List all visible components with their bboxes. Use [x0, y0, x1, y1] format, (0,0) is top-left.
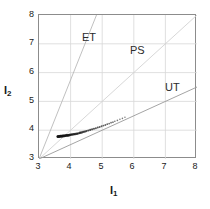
- x-tick-label: 7: [157, 162, 171, 171]
- x-tick-label: 5: [94, 162, 108, 171]
- plot-area: ET PS UT: [38, 14, 196, 158]
- region-label-ps: PS: [130, 44, 145, 56]
- x-axis-title-sub: 1: [113, 189, 117, 198]
- chart-figure: I2 I1 8 7 6 5 4 3 3 4 5 6 7 8 ET PS UT: [0, 0, 210, 209]
- x-axis-title: I1: [110, 184, 118, 196]
- y-tick-label: 7: [20, 38, 34, 47]
- y-tick-label: 8: [20, 10, 34, 19]
- y-axis-title-sub: 2: [7, 89, 11, 98]
- x-tick-label: 3: [31, 162, 45, 171]
- y-tick-label: 5: [20, 96, 34, 105]
- x-tick-label: 8: [188, 162, 202, 171]
- y-tick-label: 3: [20, 153, 34, 162]
- y-axis-title: I2: [4, 84, 12, 96]
- x-tick-label: 4: [62, 162, 76, 171]
- y-tick-label: 6: [20, 67, 34, 76]
- y-tick-label: 4: [20, 124, 34, 133]
- x-tick-label: 6: [125, 162, 139, 171]
- region-label-et: ET: [82, 31, 96, 43]
- region-label-ut: UT: [165, 81, 180, 93]
